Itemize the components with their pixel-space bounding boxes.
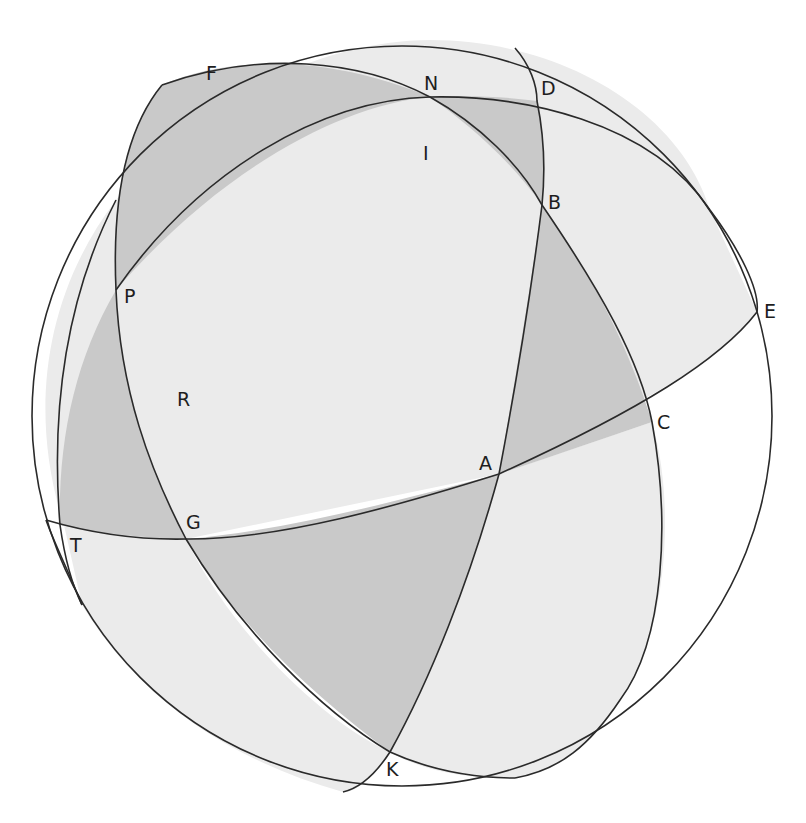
label-N: N	[424, 72, 438, 94]
label-E: E	[764, 300, 776, 322]
label-F: F	[206, 62, 217, 84]
sphere-diagram: F N D I B P E R C A G T K	[0, 0, 806, 823]
label-B: B	[548, 191, 561, 213]
label-I: I	[423, 142, 429, 164]
label-R: R	[177, 388, 190, 410]
label-D: D	[541, 77, 556, 99]
label-P: P	[124, 285, 135, 307]
label-K: K	[386, 758, 399, 780]
label-C: C	[657, 411, 670, 433]
label-G: G	[186, 511, 201, 533]
label-A: A	[479, 452, 492, 474]
label-T: T	[69, 534, 82, 556]
